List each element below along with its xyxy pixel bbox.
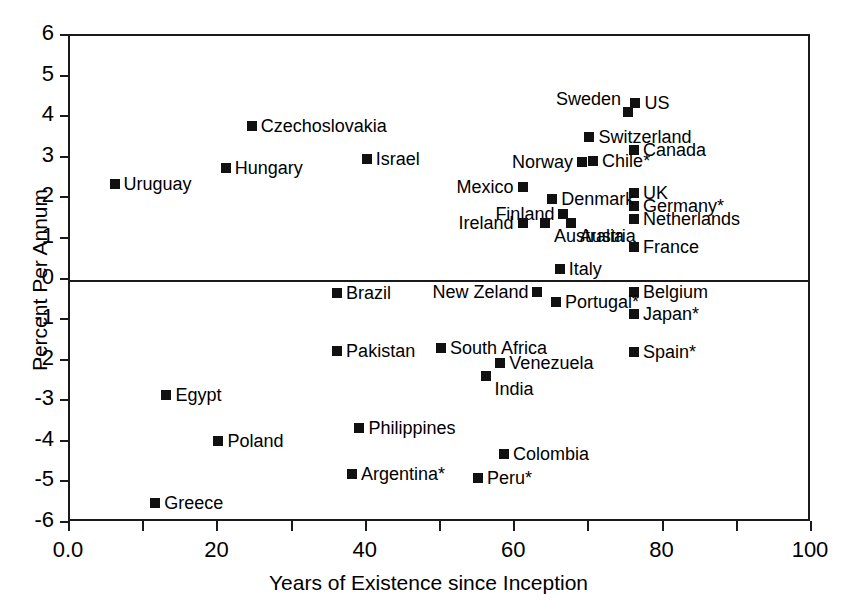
data-point-marker	[362, 154, 372, 164]
data-point-label: India	[495, 380, 534, 398]
data-point-marker	[354, 423, 364, 433]
data-point-label: Canada	[643, 141, 706, 159]
data-point-marker	[629, 347, 639, 357]
data-point-marker	[540, 218, 550, 228]
data-point-marker	[566, 218, 576, 228]
scatter-chart-figure: UruguayHungaryCzechoslovakiaIsraelMexico…	[0, 0, 857, 611]
x-axis-tick-label: 0.0	[28, 538, 108, 562]
x-axis-tick	[142, 521, 144, 531]
x-axis-tick	[68, 521, 70, 531]
data-point-label: Czechoslovakia	[261, 117, 387, 135]
x-axis-tick	[291, 521, 293, 531]
data-point-label: Spain*	[643, 343, 696, 361]
data-point-label: US	[644, 94, 669, 112]
data-point-label: Japan*	[643, 305, 699, 323]
x-axis-tick-label: 40	[325, 538, 405, 562]
data-point-label: Belgium	[643, 283, 708, 301]
data-point-label: Italy	[569, 260, 602, 278]
data-point-marker	[551, 297, 561, 307]
data-point-marker	[532, 287, 542, 297]
data-point-label: Sweden	[556, 90, 621, 108]
data-point-marker	[332, 346, 342, 356]
data-point-marker	[473, 473, 483, 483]
y-axis-tick	[60, 156, 69, 158]
data-point-marker	[547, 194, 557, 204]
data-point-marker	[436, 343, 446, 353]
x-axis-tick	[365, 521, 367, 531]
y-axis-tick	[60, 278, 69, 280]
data-point-marker	[518, 182, 528, 192]
data-point-label: Norway	[512, 153, 573, 171]
data-point-label: Chile*	[602, 152, 650, 170]
x-axis-tick	[216, 521, 218, 531]
y-axis-tick	[60, 196, 69, 198]
data-point-label: Netherlands	[643, 210, 740, 228]
data-point-marker	[555, 264, 565, 274]
y-axis-tick-label: -6	[10, 509, 54, 531]
x-axis-tick	[810, 521, 812, 531]
data-point-marker	[518, 218, 528, 228]
data-point-marker	[588, 156, 598, 166]
data-point-marker	[110, 179, 120, 189]
data-point-label: New Zeland	[432, 283, 528, 301]
data-point-marker	[495, 358, 505, 368]
data-point-label: France	[643, 238, 699, 256]
data-point-label: Peru*	[487, 469, 532, 487]
x-axis-title: Years of Existence since Inception	[0, 571, 857, 595]
data-point-marker	[332, 288, 342, 298]
data-point-label: Pakistan	[346, 342, 415, 360]
data-point-label: Hungary	[235, 159, 303, 177]
y-axis-tick	[60, 440, 69, 442]
data-point-marker	[150, 498, 160, 508]
x-axis-tick	[662, 521, 664, 531]
x-axis-tick-label: 100	[770, 538, 850, 562]
y-axis-tick-label: 6	[10, 22, 54, 44]
y-axis-tick	[60, 34, 69, 36]
data-point-label: Philippines	[368, 419, 455, 437]
y-axis-tick	[60, 399, 69, 401]
data-point-marker	[247, 121, 257, 131]
y-axis-tick	[60, 237, 69, 239]
x-axis-tick-label: 20	[176, 538, 256, 562]
plot-frame: UruguayHungaryCzechoslovakiaIsraelMexico…	[68, 34, 810, 521]
y-axis-title: Percent Per Annum	[28, 120, 52, 440]
data-point-marker	[623, 107, 633, 117]
x-axis-tick-label: 60	[473, 538, 553, 562]
data-point-marker	[347, 469, 357, 479]
data-point-label: Colombia	[513, 445, 589, 463]
data-point-label: Mexico	[457, 178, 514, 196]
y-axis-tick	[60, 75, 69, 77]
data-point-marker	[630, 98, 640, 108]
data-point-label: Brazil	[346, 284, 391, 302]
data-point-marker	[213, 436, 223, 446]
y-axis-tick	[60, 359, 69, 361]
data-point-label: Denmark	[561, 190, 634, 208]
x-axis-tick	[513, 521, 515, 531]
data-point-label: Israel	[376, 150, 420, 168]
data-point-label: Venezuela	[509, 354, 593, 372]
y-axis-tick	[60, 318, 69, 320]
data-point-label: Ireland	[459, 214, 514, 232]
data-point-label: Uruguay	[124, 175, 192, 193]
data-point-marker	[629, 214, 639, 224]
x-axis-tick-label: 80	[622, 538, 702, 562]
data-point-marker	[629, 309, 639, 319]
data-point-marker	[584, 132, 594, 142]
x-axis-tick	[736, 521, 738, 531]
x-axis-tick	[439, 521, 441, 531]
data-point-marker	[481, 371, 491, 381]
data-point-label: Egypt	[175, 386, 221, 404]
data-point-marker	[499, 449, 509, 459]
y-axis-tick-label: 5	[10, 63, 54, 85]
y-axis-tick	[60, 115, 69, 117]
x-axis-tick	[587, 521, 589, 531]
y-axis-tick	[60, 480, 69, 482]
data-point-marker	[161, 390, 171, 400]
data-point-label: Greece	[164, 494, 223, 512]
data-point-label: Poland	[227, 432, 283, 450]
data-point-marker	[221, 163, 231, 173]
data-point-label: Argentina*	[361, 465, 445, 483]
data-point-marker	[577, 157, 587, 167]
data-point-label: Austria	[580, 227, 636, 245]
y-axis-tick-label: -5	[10, 468, 54, 490]
